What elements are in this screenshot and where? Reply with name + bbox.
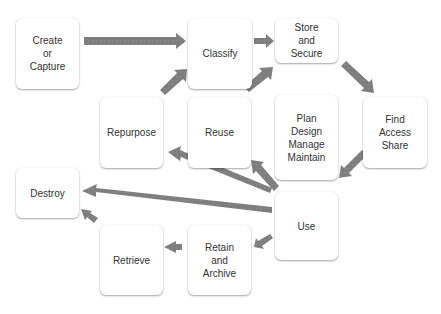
node-find-access-share: Find Access Share (363, 97, 427, 168)
node-label: Reuse (205, 126, 234, 139)
node-use: Use (275, 192, 338, 260)
node-label: Use (298, 220, 316, 233)
node-label: Repurpose (107, 126, 156, 139)
arrow-create-to-classify (84, 33, 186, 49)
node-create-or-capture: Create or Capture (16, 18, 79, 89)
node-retrieve: Retrieve (100, 225, 163, 295)
node-reuse: Reuse (188, 97, 251, 168)
node-classify: Classify (188, 18, 252, 89)
arrow-retrieve-to-destroy (81, 209, 98, 223)
node-label: Destroy (30, 187, 64, 200)
arrow-use-to-retain (254, 234, 273, 249)
node-retain-and-archive: Retain and Archive (188, 225, 251, 295)
node-store-and-secure: Store and Secure (275, 18, 338, 63)
arrow-store-to-find (341, 61, 374, 93)
node-label: Store and Secure (291, 21, 323, 60)
node-label: Retrieve (113, 254, 150, 267)
node-repurpose: Repurpose (100, 97, 163, 168)
node-label: Classify (202, 47, 237, 60)
arrow-use-to-destroy (82, 184, 272, 213)
arrow-retain-to-retrieve (164, 241, 182, 253)
node-plan-design-manage-maintain: Plan Design Manage Maintain (275, 95, 338, 180)
arrow-repurpose-to-classify (160, 69, 187, 95)
node-label: Retain and Archive (203, 241, 236, 280)
node-label: Create or Capture (30, 34, 66, 73)
node-label: Find Access Share (379, 113, 411, 152)
node-destroy: Destroy (16, 168, 79, 218)
node-label: Plan Design Manage Maintain (288, 112, 326, 164)
arrow-classify-to-store (254, 34, 274, 48)
